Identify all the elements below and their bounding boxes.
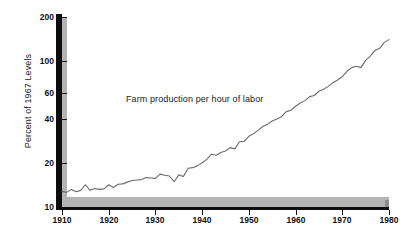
y-axis-tick-mark [62, 163, 67, 164]
chart-container: Percent of 1967 Levels 10204060100200 Fa… [0, 0, 400, 244]
x-axis-tick-label: 1970 [322, 216, 362, 225]
y-axis-tick-mark [62, 119, 67, 120]
y-axis-tick-mark [62, 61, 67, 62]
x-axis-tick-label: 1940 [182, 216, 222, 225]
y-axis-tick-mark [62, 17, 67, 18]
y-axis-tick-mark [62, 207, 67, 208]
x-axis-tick-label: 1910 [42, 216, 82, 225]
series-line-farm-production [62, 40, 389, 193]
data-series-layer [0, 0, 400, 244]
x-axis-tick-label: 1930 [135, 216, 175, 225]
series-annotation-label: Farm production per hour of labor [126, 94, 263, 104]
x-axis-tick-label: 1950 [229, 216, 269, 225]
y-axis-tick-mark [62, 93, 67, 94]
x-axis-tick-label: 1960 [276, 216, 316, 225]
x-axis-tick-label: 1980 [369, 216, 400, 225]
x-axis-tick-label: 1920 [89, 216, 129, 225]
